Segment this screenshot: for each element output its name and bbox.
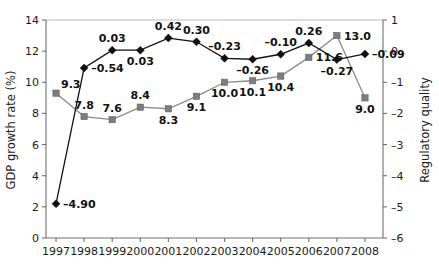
left-axis-tick-label: 6: [32, 139, 39, 152]
gdp-data-label: 9.0: [355, 103, 375, 116]
regulatory-quality-data-label: 0.03: [127, 55, 154, 68]
gdp-data-point: [137, 104, 143, 110]
gdp-data-point: [334, 32, 340, 38]
x-axis-tick-label: 1999: [98, 245, 126, 258]
right-axis-tick-label: –2: [391, 107, 404, 120]
gdp-data-point: [249, 78, 255, 84]
gdp-data-label: 8.4: [131, 89, 151, 102]
regulatory-quality-data-point: [361, 50, 369, 58]
gdp-data-point: [362, 95, 368, 101]
regulatory-quality-data-point: [192, 38, 200, 46]
gdp-data-label: 7.6: [102, 102, 122, 115]
regulatory-quality-data-label: 0.03: [99, 32, 126, 45]
regulatory-quality-data-point: [277, 50, 285, 58]
right-axis-tick-label: –5: [391, 201, 404, 214]
regulatory-quality-data-label: 0.26: [295, 25, 322, 38]
left-axis-tick-label: 0: [32, 232, 39, 245]
x-axis-tick-label: 2006: [295, 245, 323, 258]
regulatory-quality-data-label: 0.30: [183, 24, 210, 37]
x-axis-tick-label: 2004: [239, 245, 267, 258]
regulatory-quality-data-label: 0.42: [155, 20, 182, 33]
regulatory-quality-data-point: [80, 64, 88, 72]
gdp-data-label: 7.8: [74, 99, 94, 112]
regulatory-quality-data-label: –0.23: [208, 40, 241, 53]
regulatory-quality-data-point: [305, 39, 313, 47]
right-axis-tick-label: –4: [391, 170, 404, 183]
x-axis-tick-label: 2001: [154, 245, 182, 258]
left-axis-tick-label: 10: [25, 76, 39, 89]
gdp-data-point: [109, 116, 115, 122]
gdp-data-label: 11.6: [316, 51, 343, 64]
x-axis: [46, 238, 383, 242]
x-axis-tick-label: 2003: [211, 245, 239, 258]
left-axis-tick-label: 12: [25, 45, 39, 58]
right-axis-tick-label: 1: [391, 14, 398, 27]
left-axis-tick-label: 4: [32, 170, 39, 183]
gdp-data-label: 10.1: [239, 86, 266, 99]
right-y-axis-title: Regulatory quality: [418, 77, 432, 183]
regulatory-quality-data-label: –0.09: [372, 48, 405, 61]
right-axis-tick-label: –1: [391, 76, 404, 89]
gdp-data-point: [165, 106, 171, 112]
regulatory-quality-data-label: –0.54: [91, 62, 124, 75]
gdp-data-point: [81, 113, 87, 119]
left-axis-tick-label: 14: [25, 14, 39, 27]
x-axis-tick-label: 1998: [70, 245, 98, 258]
regulatory-quality-data-label: –0.26: [236, 64, 269, 77]
regulatory-quality-data-point: [221, 54, 229, 62]
x-axis-tick-label: 2002: [182, 245, 210, 258]
regulatory-quality-data-label: –0.10: [264, 36, 297, 49]
left-y-axis-tick-labels: 02468101214: [25, 14, 39, 245]
gdp-data-label: 10.0: [211, 87, 238, 100]
gdp-data-point: [193, 93, 199, 99]
gdp-data-label: 9.1: [187, 101, 207, 114]
x-axis-tick-label: 2005: [267, 245, 295, 258]
regulatory-quality-data-point: [108, 46, 116, 54]
left-axis-tick-label: 8: [32, 107, 39, 120]
gdp-data-label: 9.3: [61, 78, 81, 91]
gdp-data-label: 8.3: [159, 114, 179, 127]
left-y-axis: [42, 20, 46, 238]
gdp-data-label: 10.4: [267, 81, 294, 94]
regulatory-quality-data-point: [136, 46, 144, 54]
regulatory-quality-data-point: [249, 55, 257, 63]
chart-container: 02468101214 –6–5–4–3–2–101 1997199819992…: [0, 0, 439, 266]
x-axis-tick-label: 2000: [126, 245, 154, 258]
regulatory-quality-data-label: –0.27: [321, 65, 354, 78]
x-axis-tick-label: 2008: [351, 245, 379, 258]
left-y-axis-title: GDP growth rate (%): [4, 71, 18, 190]
right-axis-tick-label: –6: [391, 232, 404, 245]
gdp-data-point: [221, 79, 227, 85]
x-axis-tick-label: 1997: [42, 245, 70, 258]
dual-axis-line-chart: 02468101214 –6–5–4–3–2–101 1997199819992…: [0, 0, 439, 266]
x-axis-tick-label: 2007: [323, 245, 351, 258]
regulatory-quality-data-point: [164, 34, 172, 42]
left-axis-tick-label: 2: [32, 201, 39, 214]
x-axis-tick-labels: 1997199819992000200120022003200420052006…: [42, 245, 379, 258]
regulatory-quality-data-label: –4.90: [63, 198, 96, 211]
regulatory-quality-data-point: [52, 200, 60, 208]
right-axis-tick-label: –3: [391, 139, 404, 152]
gdp-data-point: [306, 54, 312, 60]
gdp-data-point: [278, 73, 284, 79]
gdp-data-label: 13.0: [344, 30, 371, 43]
gdp-data-point: [53, 90, 59, 96]
